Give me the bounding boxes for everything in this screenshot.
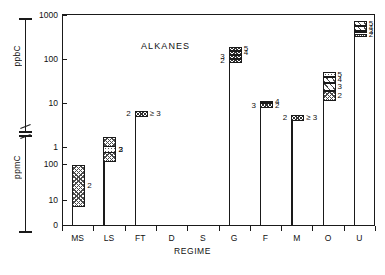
segment-label-F-3: 4 bbox=[275, 98, 279, 106]
segment-label-F-1: 3 bbox=[252, 102, 256, 110]
bar-segment-G-c2 bbox=[229, 55, 242, 59]
bar-stem-F bbox=[260, 101, 261, 226]
x-tick-10 bbox=[375, 226, 376, 231]
x-axis-label-U: U bbox=[356, 233, 362, 243]
chart-title: ALKANES bbox=[141, 41, 190, 51]
alkanes-regime-chart: ppbC ppmC 1000100101100100 ALKANES 2232≥… bbox=[0, 0, 385, 275]
segment-label-O-1: 2 bbox=[338, 92, 342, 100]
x-tick-6 bbox=[250, 226, 251, 231]
x-axis-label-M: M bbox=[293, 233, 300, 243]
x-tick-5 bbox=[219, 226, 220, 231]
ytick-ppbc-1-mark bbox=[62, 147, 67, 148]
segment-label-LS-2: 3 bbox=[118, 146, 122, 154]
bar-segment-F-c2 bbox=[260, 103, 273, 108]
x-tick-2 bbox=[125, 226, 126, 231]
ytick-ppmc-0: 0 bbox=[53, 220, 58, 230]
x-axis-title: REGIME bbox=[0, 246, 385, 256]
bar-segment-U-c1 bbox=[354, 34, 367, 38]
bar-segment-G-c4 bbox=[229, 47, 242, 51]
ytick-ppbc-100-mark bbox=[62, 59, 67, 60]
ytick-ppbc-1000: 1000 bbox=[39, 10, 58, 20]
segment-label-O-2: 3 bbox=[338, 83, 342, 91]
x-axis-label-FT: FT bbox=[135, 233, 145, 243]
segment-label-G-4: 5 bbox=[244, 45, 248, 53]
ytick-ppmc-0-mark bbox=[62, 225, 67, 226]
x-tick-3 bbox=[156, 226, 157, 231]
x-axis-label-G: G bbox=[231, 233, 238, 243]
segment-label-FT-2: ≥ 3 bbox=[150, 110, 161, 118]
segment-label-M-1: 2 bbox=[283, 114, 287, 122]
bar-segment-M-c2 bbox=[291, 115, 304, 120]
bar-stem-U bbox=[354, 21, 355, 226]
segment-label-U-4: 5 bbox=[369, 20, 373, 28]
bar-segment-U-c3 bbox=[354, 26, 367, 31]
segment-label-MS-1: 2 bbox=[87, 182, 91, 190]
y-axis-tick-labels: 1000100101100100 bbox=[10, 0, 58, 240]
bar-segment-F-c3 bbox=[260, 101, 273, 104]
x-axis-label-D: D bbox=[168, 233, 174, 243]
bar-stem-FT bbox=[135, 111, 136, 226]
bar-segment-U-c4 bbox=[354, 21, 367, 26]
ytick-ppmc-100: 100 bbox=[44, 159, 58, 169]
bar-stem-G bbox=[229, 47, 230, 226]
bar-segment-U-c2 bbox=[354, 31, 367, 34]
bar-segment-O-c3 bbox=[323, 77, 336, 83]
segment-label-O-4: 5 bbox=[338, 71, 342, 79]
segment-label-FT-1: 2 bbox=[126, 110, 130, 118]
bar-stem-M bbox=[291, 115, 292, 226]
ytick-ppbc-1: 1 bbox=[53, 142, 58, 152]
x-tick-7 bbox=[281, 226, 282, 231]
x-tick-1 bbox=[93, 226, 94, 231]
bar-segment-LS-c2 bbox=[103, 146, 116, 153]
ytick-ppbc-100: 100 bbox=[44, 54, 58, 64]
bar-segment-O-c4 bbox=[323, 72, 336, 76]
x-tick-4 bbox=[187, 226, 188, 231]
bar-segment-FT-c2 bbox=[135, 111, 148, 117]
segment-label-G-2: 3 bbox=[220, 53, 224, 61]
x-axis-label-F: F bbox=[263, 233, 268, 243]
ytick-ppbc-10-mark bbox=[62, 103, 67, 104]
x-tick-8 bbox=[312, 226, 313, 231]
bar-segment-O-c1 bbox=[323, 91, 336, 101]
bar-segment-O-c2 bbox=[323, 83, 336, 91]
x-axis-label-S: S bbox=[200, 233, 206, 243]
ytick-ppbc-10: 10 bbox=[49, 98, 58, 108]
x-axis-label-LS: LS bbox=[104, 233, 114, 243]
x-axis-label-O: O bbox=[325, 233, 332, 243]
bar-segment-MS-c1 bbox=[72, 165, 85, 207]
x-tick-9 bbox=[344, 226, 345, 231]
ytick-ppmc-10-mark bbox=[62, 200, 67, 201]
plot-inner: ALKANES 2232≥ 323453242≥ 323452345 bbox=[63, 15, 374, 225]
bar-segment-G-c1 bbox=[229, 59, 242, 63]
x-axis-label-MS: MS bbox=[71, 233, 84, 243]
ytick-ppmc-10: 10 bbox=[49, 195, 58, 205]
segment-label-M-2: ≥ 3 bbox=[306, 114, 317, 122]
bar-segment-G-c3 bbox=[229, 51, 242, 55]
ytick-ppmc-100-mark bbox=[62, 164, 67, 165]
x-tick-0 bbox=[62, 226, 63, 231]
plot-area: ALKANES 2232≥ 323453242≥ 323452345 bbox=[62, 14, 375, 226]
ytick-ppbc-1000-mark bbox=[62, 15, 67, 16]
